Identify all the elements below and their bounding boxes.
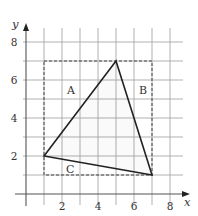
x-tick-label: 4 bbox=[95, 200, 102, 212]
x-tick-label: 8 bbox=[167, 200, 174, 212]
region-label-a: A bbox=[66, 84, 76, 97]
y-tick-label: 4 bbox=[11, 112, 18, 124]
x-tick-label: 2 bbox=[59, 200, 66, 212]
y-tick-label: 2 bbox=[11, 150, 18, 162]
y-axis-arrow-icon bbox=[23, 23, 29, 31]
region-label-b: B bbox=[139, 84, 147, 97]
y-tick-labels: 2 4 6 8 bbox=[11, 36, 18, 162]
plot-canvas: x y 2 4 6 8 2 4 6 8 A B C bbox=[0, 0, 198, 216]
coordinate-diagram: x y 2 4 6 8 2 4 6 8 A B C bbox=[0, 0, 198, 216]
y-tick-label: 8 bbox=[11, 36, 18, 48]
y-axis-label: y bbox=[11, 17, 19, 31]
x-axis-label: x bbox=[184, 195, 191, 209]
y-tick-label: 6 bbox=[11, 74, 18, 86]
x-tick-label: 6 bbox=[131, 200, 138, 212]
region-label-c: C bbox=[66, 163, 74, 176]
